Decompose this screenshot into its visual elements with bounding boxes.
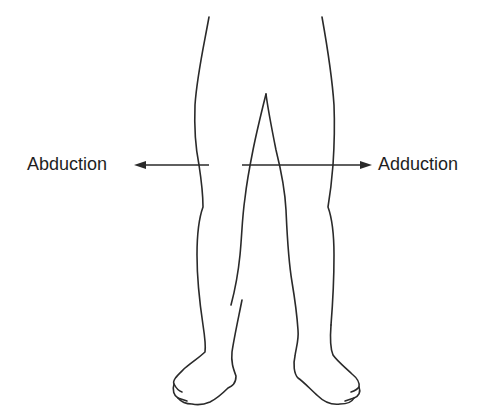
adduction-label: Adduction bbox=[378, 155, 458, 173]
right-leg-outer-contour bbox=[322, 17, 334, 325]
abduction-label: Abduction bbox=[27, 155, 107, 173]
left-foot-toes bbox=[174, 384, 187, 401]
adduction-arrow bbox=[242, 161, 372, 169]
right-leg-inner-contour bbox=[266, 94, 360, 404]
legs-illustration bbox=[0, 0, 495, 417]
left-leg-inner-contour bbox=[231, 94, 266, 305]
abduction-adduction-diagram: Abduction Adduction bbox=[0, 0, 495, 417]
left-leg-outer-contour bbox=[173, 17, 242, 405]
right-foot-toes bbox=[345, 387, 359, 401]
